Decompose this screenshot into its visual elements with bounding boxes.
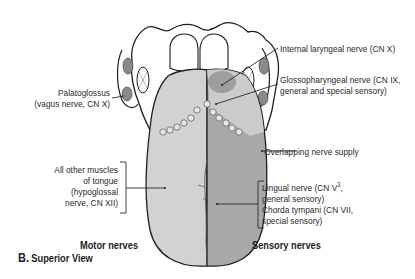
label-other-muscles-line1: All other muscles [30, 164, 118, 175]
caption-title: Superior View [31, 252, 92, 264]
label-other-muscles-line3: (hypoglossal [30, 186, 118, 197]
label-chorda-tympani-line1: Chorda tympani (CN VII, [262, 204, 353, 215]
vallecula-left [170, 34, 198, 71]
label-lingual-line1: Lingual nerve (CN V3, [262, 182, 353, 193]
tongue-innervation-figure: Palatoglossus (vagus nerve, CN X) Intern… [0, 0, 415, 279]
label-glossopharyngeal-line2: general and special sensory) [280, 85, 400, 96]
palatoglossus-muscle-upper-left [123, 58, 133, 74]
label-palatoglossus-line1: Palatoglossus [22, 87, 110, 98]
label-other-muscles-line4: nerve, CN XII) [30, 197, 118, 208]
label-palatoglossus-line2: (vagus nerve, CN X) [22, 98, 110, 109]
palatoglossus-muscle-upper-right [259, 58, 269, 74]
label-palatoglossus: Palatoglossus (vagus nerve, CN X) [22, 87, 110, 109]
label-glossopharyngeal: Glossopharyngeal nerve (CN IX, general a… [280, 74, 400, 96]
label-overlapping-nerve-supply: Overlapping nerve supply [264, 146, 359, 157]
figure-caption: B. Superior View [18, 253, 93, 264]
bracket-motor [120, 162, 126, 213]
label-lingual-line2: general sensory) [262, 193, 353, 204]
label-other-muscles: All other muscles of tongue (hypoglossal… [30, 164, 118, 208]
palatoglossus-muscle-lower-left [122, 87, 132, 101]
sensory-nerves-title: Sensory nerves [252, 240, 321, 251]
caption-letter: B. [18, 251, 29, 265]
vallecula-right [200, 34, 228, 71]
motor-nerves-title: Motor nerves [80, 240, 138, 251]
tongue-illustration [0, 0, 415, 279]
label-glossopharyngeal-line1: Glossopharyngeal nerve (CN IX, [280, 74, 400, 85]
label-other-muscles-line2: of tongue [30, 175, 118, 186]
label-sensory-nerves-group: Lingual nerve (CN V3, general sensory) C… [262, 182, 353, 226]
label-internal-laryngeal: Internal laryngeal nerve (CN X) [280, 43, 395, 54]
tongue-left-half [146, 69, 207, 266]
lingual-text: Lingual nerve (CN V [262, 182, 337, 193]
internal-laryngeal-region [208, 71, 236, 93]
lingual-comma: , [340, 182, 342, 193]
label-chorda-tympani-line2: special sensory) [262, 215, 353, 226]
